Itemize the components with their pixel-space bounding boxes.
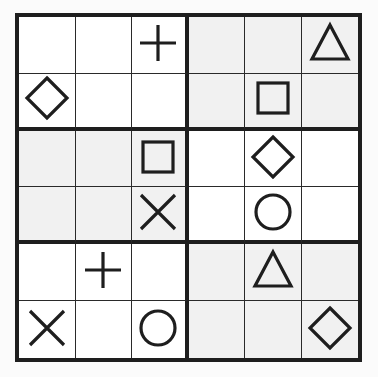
cell-r3-c4[interactable]	[189, 131, 246, 188]
cell-r3-c5[interactable]	[245, 131, 302, 188]
cell-r5-c3[interactable]	[132, 244, 189, 301]
cell-r3-c1[interactable]	[19, 131, 76, 188]
cell-r3-c6[interactable]	[302, 131, 359, 188]
cell-r5-c4[interactable]	[189, 244, 246, 301]
triangle-icon	[253, 250, 293, 294]
cell-r6-c5[interactable]	[245, 301, 302, 358]
cell-r6-c6[interactable]	[302, 301, 359, 358]
plus-icon	[138, 23, 178, 67]
cell-r6-c2[interactable]	[76, 301, 133, 358]
cross-icon	[138, 192, 178, 236]
cell-r6-c1[interactable]	[19, 301, 76, 358]
cell-r5-c2[interactable]	[76, 244, 133, 301]
diamond-icon	[27, 78, 67, 122]
square-icon	[138, 137, 178, 181]
cell-r4-c2[interactable]	[76, 187, 133, 244]
cell-r5-c6[interactable]	[302, 244, 359, 301]
diamond-icon	[310, 308, 350, 352]
cell-r3-c2[interactable]	[76, 131, 133, 188]
cell-r2-c4[interactable]	[189, 74, 246, 131]
cell-r2-c6[interactable]	[302, 74, 359, 131]
diamond-icon	[253, 137, 293, 181]
square-icon	[253, 78, 293, 122]
cell-r6-c4[interactable]	[189, 301, 246, 358]
cell-r1-c5[interactable]	[245, 17, 302, 74]
plus-icon	[83, 250, 123, 294]
cell-r6-c3[interactable]	[132, 301, 189, 358]
cell-r1-c2[interactable]	[76, 17, 133, 74]
cell-r4-c1[interactable]	[19, 187, 76, 244]
cell-r2-c2[interactable]	[76, 74, 133, 131]
cross-icon	[27, 308, 67, 352]
cell-r4-c6[interactable]	[302, 187, 359, 244]
cell-r2-c5[interactable]	[245, 74, 302, 131]
triangle-icon	[310, 23, 350, 67]
cell-r1-c3[interactable]	[132, 17, 189, 74]
cell-r3-c3[interactable]	[132, 131, 189, 188]
cell-r4-c3[interactable]	[132, 187, 189, 244]
cell-r4-c4[interactable]	[189, 187, 246, 244]
cell-r4-c5[interactable]	[245, 187, 302, 244]
cell-r2-c1[interactable]	[19, 74, 76, 131]
circle-icon	[253, 192, 293, 236]
cell-r2-c3[interactable]	[132, 74, 189, 131]
cell-r1-c4[interactable]	[189, 17, 246, 74]
cell-r1-c1[interactable]	[19, 17, 76, 74]
circle-icon	[138, 308, 178, 352]
cell-r1-c6[interactable]	[302, 17, 359, 74]
cell-r5-c1[interactable]	[19, 244, 76, 301]
puzzle-grid	[15, 13, 362, 362]
cell-r5-c5[interactable]	[245, 244, 302, 301]
